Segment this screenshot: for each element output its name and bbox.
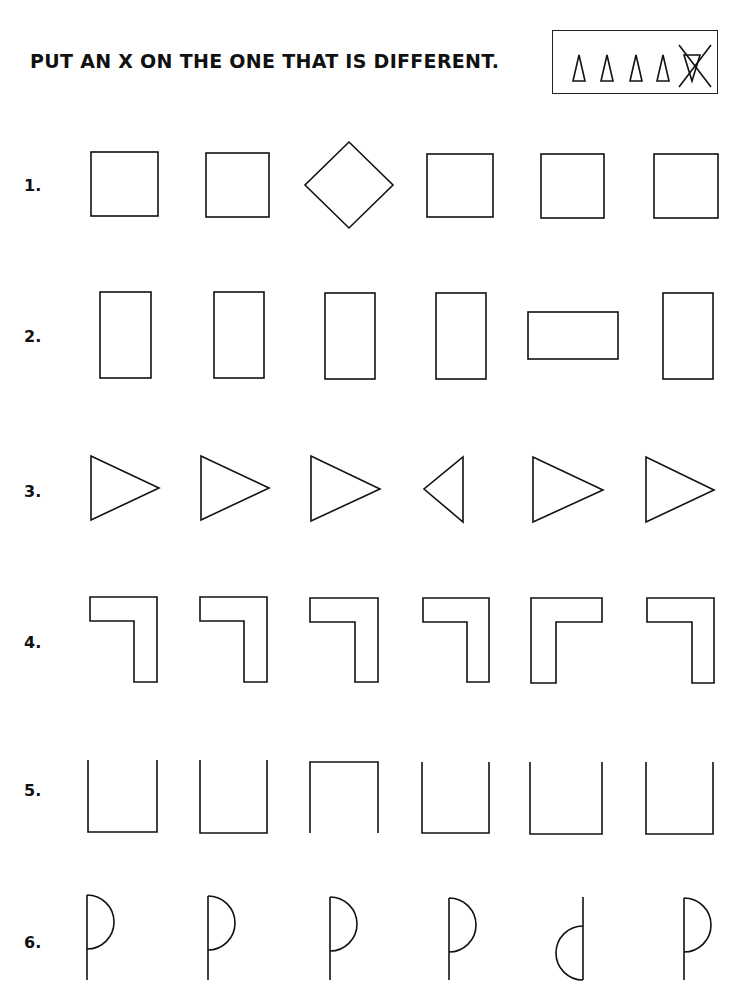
worksheet-shapes	[0, 0, 741, 998]
row-4-shapes[interactable]	[90, 597, 714, 683]
row-2-shapes[interactable]	[100, 292, 713, 379]
row-5-shapes[interactable]	[88, 760, 713, 834]
row-6-shapes[interactable]	[87, 895, 711, 980]
row-3-shapes[interactable]	[91, 456, 714, 522]
row-1-shapes[interactable]	[91, 142, 718, 228]
